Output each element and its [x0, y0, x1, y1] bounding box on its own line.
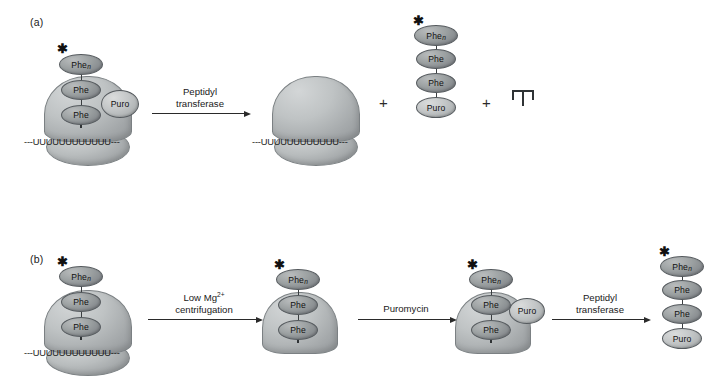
residue-label: Phe — [73, 85, 89, 95]
radiolabel-star-b-stage2: ✱ — [274, 258, 285, 271]
residue-label: Phe — [672, 262, 688, 272]
reaction-arrow-b-3: Peptidyl transferase — [552, 280, 648, 320]
residue-phe-n-b-stage4: Phen — [660, 256, 704, 277]
plus-sign-a-1: + — [379, 95, 388, 110]
residue-label: Phe — [483, 300, 499, 310]
puromycin-b-stage4: Puro — [662, 328, 702, 349]
residue-label: Phe — [674, 309, 690, 319]
residue-phe-a-reactant-3: Phe — [61, 105, 101, 125]
puromycin-label: Puro — [518, 306, 537, 316]
caption-line-1: Low Mg2+ — [175, 289, 233, 304]
panel-label-b: (b) — [30, 253, 43, 265]
residue-phe-a-product-3: Phe — [416, 73, 456, 93]
puromycin-a-product: Puro — [416, 97, 456, 118]
residue-label: Phe — [290, 300, 306, 310]
residue-phe-b-stage3-2: Phe — [471, 295, 511, 315]
plus-sign-a-2: + — [482, 95, 491, 110]
residue-phe-b-stage4-3: Phe — [662, 304, 702, 324]
residue-phe-a-reactant-2: Phe — [61, 80, 101, 100]
residue-phe-n-a-reactant: Phen — [59, 54, 103, 75]
residue-subscript: n — [304, 278, 308, 285]
caption-line-1: Peptidyl — [576, 292, 624, 304]
radiolabel-star-b-stage1: ✱ — [57, 255, 68, 268]
caption-text: Low Mg — [183, 292, 217, 303]
residue-subscript: n — [87, 275, 91, 282]
residue-phe-b-stage2-2: Phe — [278, 295, 318, 315]
residue-label: Phe — [428, 78, 444, 88]
caption-line-2: centrifugation — [175, 304, 233, 316]
residue-label: Phe — [73, 322, 89, 332]
residue-label: Phe — [428, 54, 444, 64]
caption-superscript: 2+ — [217, 291, 225, 298]
mrna-strand-a-product: ---UUUUUUUUUUUU--- — [252, 137, 348, 147]
residue-phe-a-product-2: Phe — [416, 49, 456, 69]
residue-phe-n-b-stage1: Phen — [59, 266, 103, 287]
radiolabel-star-a-reactant: ✱ — [57, 42, 68, 55]
residue-phe-n-b-stage2: Phen — [276, 269, 320, 290]
residue-label: Phe — [71, 272, 87, 282]
caption-line-2: transferase — [176, 98, 224, 110]
reaction-arrow-b-3-caption: Peptidyl transferase — [576, 292, 624, 315]
residue-phe-n-b-stage3: Phen — [469, 269, 513, 290]
reaction-arrow-b-2-caption: Puromycin — [383, 303, 428, 315]
puromycin-label: Puro — [427, 103, 446, 113]
mrna-strand-b-stage1: ---UUUUUUUUUUUU--- — [24, 348, 120, 358]
panel-label-a: (a) — [30, 16, 43, 28]
radiolabel-star-b-stage4: ✱ — [659, 245, 670, 258]
puromycin-a-reactant: Puro — [101, 90, 139, 118]
residue-subscript: n — [688, 265, 692, 272]
residue-phe-b-stage2-3: Phe — [278, 320, 318, 340]
residue-label: Phe — [481, 275, 497, 285]
reaction-arrow-b-1: Low Mg2+ centrifugation — [148, 280, 260, 320]
residue-label: Phe — [73, 110, 89, 120]
residue-subscript: n — [87, 63, 91, 70]
residue-label: Phe — [674, 285, 690, 295]
reaction-arrow-a: Peptidyl transferase — [152, 74, 248, 114]
caption-line-1: Peptidyl — [176, 86, 224, 98]
residue-label: Phe — [71, 60, 87, 70]
caption-line-2: transferase — [576, 304, 624, 316]
residue-phe-n-a-product: Phen — [414, 25, 458, 46]
figure-canvas: (a) ---UUUUUUUUUUUU--- ✱ Phen Phe Phe Pu… — [0, 0, 718, 381]
residue-subscript: n — [497, 278, 501, 285]
residue-label: Phe — [483, 325, 499, 335]
reaction-arrow-b-2: Puromycin — [358, 290, 454, 320]
residue-phe-b-stage1-3: Phe — [61, 317, 101, 337]
radiolabel-star-a-product: ✱ — [413, 14, 424, 27]
reaction-arrow-a-caption: Peptidyl transferase — [176, 86, 224, 109]
puromycin-label: Puro — [111, 99, 130, 109]
residue-subscript: n — [442, 34, 446, 41]
residue-phe-b-stage3-3: Phe — [471, 320, 511, 340]
residue-label: Phe — [290, 325, 306, 335]
puromycin-label: Puro — [673, 334, 692, 344]
mrna-strand-a-reactant: ---UUUUUUUUUUUU--- — [24, 137, 120, 147]
ribosome-large-subunit-a-product — [272, 76, 360, 142]
residue-label: Phe — [288, 275, 304, 285]
puromycin-b-stage3: Puro — [509, 298, 545, 324]
residue-phe-b-stage4-2: Phe — [662, 280, 702, 300]
reaction-arrow-b-1-caption: Low Mg2+ centrifugation — [175, 289, 233, 315]
residue-label: Phe — [73, 297, 89, 307]
residue-label: Phe — [426, 31, 442, 41]
radiolabel-star-b-stage3: ✱ — [467, 258, 478, 271]
trna-icon-a-product-free — [512, 90, 534, 106]
residue-phe-b-stage1-2: Phe — [61, 292, 101, 312]
